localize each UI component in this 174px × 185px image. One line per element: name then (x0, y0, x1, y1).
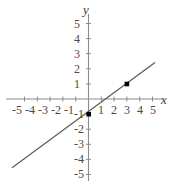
y-tick-label: 1 (74, 77, 80, 91)
data-point-marker (125, 82, 130, 87)
data-point-marker (86, 112, 91, 117)
x-tick-label: -4 (25, 103, 35, 117)
x-axis-label: x (160, 92, 167, 107)
x-tick-label: 3 (124, 103, 130, 117)
coordinate-plane-graph: y x -5 -4 -3 -2 -1 1 2 3 4 5 5 4 3 2 1 -… (0, 0, 174, 185)
y-tick-label: -4 (74, 152, 84, 166)
x-tick-label: -1 (64, 103, 74, 117)
x-tick-label: -2 (51, 103, 61, 117)
y-tick-label: 3 (74, 47, 80, 61)
x-tick-label: -5 (12, 103, 22, 117)
x-tick-label: -3 (38, 103, 48, 117)
x-tick-label: 1 (98, 103, 104, 117)
y-axis-label: y (81, 2, 89, 17)
y-tick-label: 5 (74, 17, 80, 31)
y-tick-label: 2 (74, 62, 80, 76)
graph-canvas: y x -5 -4 -3 -2 -1 1 2 3 4 5 5 4 3 2 1 -… (0, 0, 174, 185)
y-tick-label: -2 (74, 122, 84, 136)
y-tick-label: -1 (74, 107, 84, 121)
y-tick-label: 4 (74, 32, 80, 46)
x-tick-label: 5 (150, 103, 156, 117)
x-tick-label: 2 (111, 103, 117, 117)
y-tick-label: -5 (74, 167, 84, 181)
y-tick-label: -3 (74, 137, 84, 151)
x-tick-label: 4 (137, 103, 143, 117)
